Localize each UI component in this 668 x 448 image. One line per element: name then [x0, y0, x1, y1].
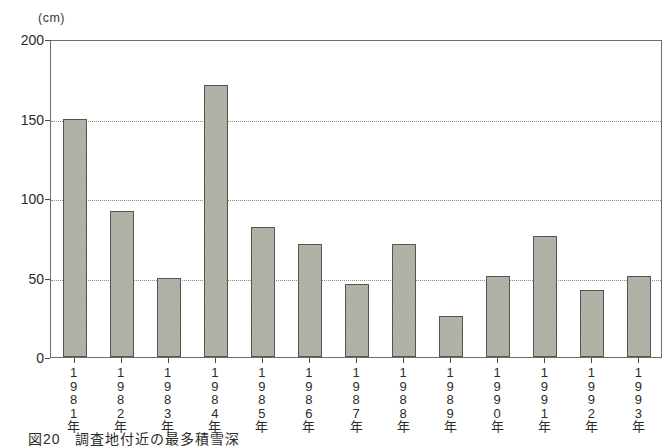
x-axis-label-1990年: 1990年: [482, 366, 512, 434]
bar-slot: [145, 41, 192, 357]
x-axis-label-1987年: 1987年: [341, 366, 371, 434]
x-axis-label-1985年: 1985年: [247, 366, 277, 434]
bar-slot: [381, 41, 428, 357]
caption-text: 調査地付近の最多積雪深: [75, 431, 240, 447]
x-axis-label-1993年: 1993年: [623, 366, 653, 434]
bars-group: [51, 41, 661, 357]
x-axis-label-1989年: 1989年: [435, 366, 465, 434]
x-axis-label-1981年: 1981年: [59, 366, 89, 434]
x-tick-1985年: [262, 358, 263, 363]
caption-number: 図20: [28, 431, 61, 447]
x-tick-1992年: [591, 358, 592, 363]
bar-slot: [475, 41, 522, 357]
bar-1993年: [627, 276, 651, 357]
x-tick-1984年: [215, 358, 216, 363]
bar-1991年: [533, 236, 557, 357]
plot-area: [50, 40, 662, 358]
y-axis-label-0: 0: [2, 350, 44, 366]
bar-slot: [51, 41, 98, 357]
x-axis-label-1991年: 1991年: [529, 366, 559, 434]
x-axis-label-1983年: 1983年: [153, 366, 183, 434]
bar-1989年: [439, 316, 463, 357]
y-tick-200: [45, 40, 50, 41]
bar-slot: [616, 41, 663, 357]
x-tick-1981年: [74, 358, 75, 363]
x-axis-label-1982年: 1982年: [106, 366, 136, 434]
y-tick-50: [45, 279, 50, 280]
bar-1984年: [204, 85, 228, 357]
y-axis-label-150: 150: [2, 112, 44, 128]
bar-slot: [522, 41, 569, 357]
y-tick-0: [45, 358, 50, 359]
x-tick-1993年: [638, 358, 639, 363]
bar-slot: [286, 41, 333, 357]
y-tick-150: [45, 120, 50, 121]
x-axis-label-1984年: 1984年: [200, 366, 230, 434]
x-axis-label-1988年: 1988年: [388, 366, 418, 434]
x-tick-1987年: [356, 358, 357, 363]
bar-1982年: [110, 211, 134, 357]
bar-1987年: [345, 284, 369, 357]
bar-1990年: [486, 276, 510, 357]
bar-slot: [428, 41, 475, 357]
x-tick-1990年: [497, 358, 498, 363]
y-axis-unit-label: (cm): [38, 11, 65, 25]
bar-slot: [239, 41, 286, 357]
bar-slot: [569, 41, 616, 357]
x-tick-1988年: [403, 358, 404, 363]
bar-1992年: [580, 290, 604, 357]
x-tick-1986年: [309, 358, 310, 363]
x-tick-1982年: [121, 358, 122, 363]
bar-slot: [333, 41, 380, 357]
bar-1983年: [157, 278, 181, 358]
x-axis-label-1992年: 1992年: [576, 366, 606, 434]
x-tick-1983年: [168, 358, 169, 363]
y-axis-label-50: 50: [2, 271, 44, 287]
y-axis-label-100: 100: [2, 191, 44, 207]
figure-caption: 図20調査地付近の最多積雪深: [28, 428, 240, 448]
bar-1986年: [298, 244, 322, 357]
bar-1981年: [63, 119, 87, 358]
bar-1985年: [251, 227, 275, 357]
x-tick-1991年: [544, 358, 545, 363]
bar-slot: [192, 41, 239, 357]
x-axis-label-1986年: 1986年: [294, 366, 324, 434]
y-tick-100: [45, 199, 50, 200]
x-tick-1989年: [450, 358, 451, 363]
y-axis-label-200: 200: [2, 32, 44, 48]
bar-1988年: [392, 244, 416, 357]
bar-slot: [98, 41, 145, 357]
